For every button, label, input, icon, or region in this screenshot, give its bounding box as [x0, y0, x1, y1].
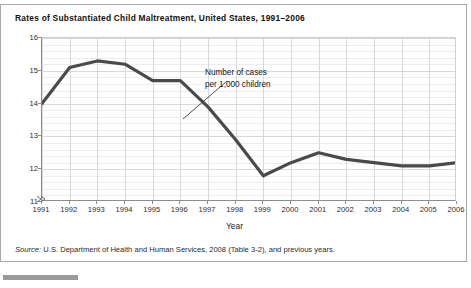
y-tick-mark	[38, 168, 41, 169]
y-tick-label: 12	[12, 164, 38, 173]
y-tick-label: 13	[12, 131, 38, 140]
axis-break-icon	[36, 194, 47, 205]
y-tick-mark	[38, 135, 41, 136]
x-tick-mark	[69, 201, 70, 204]
annotation-line-2: per 1,000 children	[205, 79, 271, 91]
x-tick-mark	[207, 201, 208, 204]
source-label: Source:	[15, 245, 41, 254]
y-tick-mark	[38, 70, 41, 71]
source-note: Source: U.S. Department of Health and Hu…	[15, 245, 335, 254]
x-tick-mark	[345, 201, 346, 204]
x-tick-mark	[124, 201, 125, 204]
y-tick-label: 15	[12, 65, 38, 74]
x-tick-mark	[179, 201, 180, 204]
x-tick-mark	[401, 201, 402, 204]
footer-divider-bar	[3, 275, 78, 280]
x-tick-mark	[456, 201, 457, 204]
x-tick-mark	[373, 201, 374, 204]
x-tick-mark	[235, 201, 236, 204]
source-text: U.S. Department of Health and Human Serv…	[41, 245, 335, 254]
x-tick-mark	[318, 201, 319, 204]
chart-annotation: Number of cases per 1,000 children	[205, 67, 271, 90]
x-tick-mark	[152, 201, 153, 204]
x-tick-mark	[262, 201, 263, 204]
annotation-line-1: Number of cases	[205, 67, 271, 79]
chart-canvas: 111213141516 199119921993199419951996199…	[1, 5, 468, 263]
y-tick-mark	[38, 103, 41, 104]
x-axis-title: Year	[1, 221, 468, 231]
y-tick-label: 16	[12, 33, 38, 42]
y-tick-mark	[38, 37, 41, 38]
figure-container: Rates of Substantiated Child Maltreatmen…	[0, 4, 467, 262]
x-tick-label: 2006	[436, 205, 471, 214]
x-tick-mark	[96, 201, 97, 204]
x-tick-mark	[290, 201, 291, 204]
y-tick-label: 14	[12, 98, 38, 107]
x-tick-mark	[428, 201, 429, 204]
